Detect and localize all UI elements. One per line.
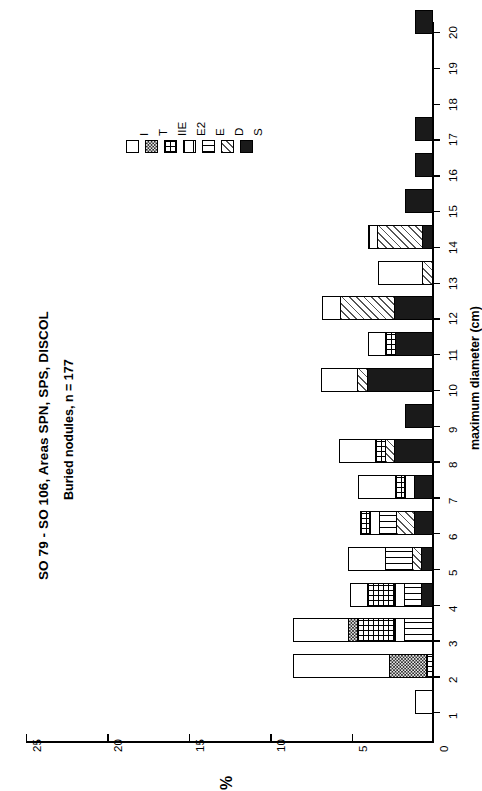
percent-tick-label: 10: [275, 739, 287, 752]
stacked-bar: [293, 618, 433, 642]
bar-segment-d: [413, 548, 423, 570]
diameter-tick: [433, 68, 440, 69]
bar-segment-iie: [368, 584, 395, 606]
bar-segment-s: [396, 333, 432, 355]
stacked-bar: [348, 547, 433, 571]
stacked-bar: [415, 153, 433, 177]
stacked-bar: [415, 10, 433, 34]
percent-tick-label: 20: [112, 739, 124, 752]
bar-segment-i: [349, 548, 386, 570]
percent-tick: [107, 734, 108, 741]
percent-tick: [189, 734, 190, 741]
diameter-tick: [433, 426, 440, 427]
diameter-tick: [433, 712, 440, 713]
bar-segment-s: [416, 11, 432, 33]
diameter-tick: [433, 283, 440, 284]
bar-segment-i: [322, 369, 359, 391]
legend-swatch-t: [145, 140, 158, 153]
bar-segment-i: [416, 691, 432, 713]
legend-label-e2: E2: [195, 122, 207, 136]
stacked-bar: [360, 511, 433, 535]
stacked-bar: [415, 117, 433, 141]
bar-segment-iie: [376, 440, 386, 462]
bar-segment-s: [415, 512, 432, 534]
diameter-tick-label: 6: [447, 534, 459, 540]
stacked-bar: [405, 404, 433, 428]
diameter-tick-label: 19: [447, 62, 459, 75]
legend-swatch-i: [126, 140, 139, 153]
bar-segment-i: [323, 297, 341, 319]
bar-segment-s: [368, 369, 432, 391]
bar-segment-iie: [358, 619, 395, 641]
stacked-bar: [339, 439, 433, 463]
legend-swatch-s: [240, 140, 253, 153]
diameter-tick-label: 10: [447, 384, 459, 397]
bar-segment-i: [294, 655, 390, 677]
legend-label-t: T: [157, 129, 169, 136]
percent-tick: [433, 734, 434, 741]
stacked-bar: [378, 261, 433, 285]
bar-segment-d: [423, 262, 432, 284]
diameter-tick-label: 5: [447, 569, 459, 575]
bar-segment-s: [415, 476, 432, 498]
diameter-tick-label: 11: [447, 349, 459, 361]
diameter-tick: [433, 104, 440, 105]
percent-tick: [352, 734, 353, 741]
bar-segment-iie: [396, 476, 406, 498]
legend-label-i: I: [138, 133, 150, 136]
bar-segment-e2: [395, 619, 405, 641]
diameter-tick: [433, 676, 440, 677]
diameter-tick-label: 18: [447, 98, 459, 111]
diameter-tick: [433, 390, 440, 391]
bar-segment-i: [294, 619, 349, 641]
diameter-tick-label: 8: [447, 462, 459, 468]
bar-segment-t: [349, 619, 359, 641]
stacked-bar: [415, 690, 433, 714]
percent-axis-label: %: [218, 776, 236, 790]
bar-segment-s: [406, 190, 432, 212]
diameter-tick: [433, 533, 440, 534]
bar-segment-iie: [427, 655, 432, 677]
percent-tick: [26, 734, 27, 741]
bar-segment-e2: [395, 584, 405, 606]
bar-segment-e: [380, 512, 397, 534]
bar-segment-s: [395, 297, 432, 319]
diameter-tick: [433, 640, 440, 641]
diameter-tick-label: 4: [447, 605, 459, 611]
diameter-tick: [433, 497, 440, 498]
bar-segment-iie: [386, 333, 395, 355]
percent-tick-label: 15: [194, 739, 206, 752]
diameter-tick-label: 17: [447, 134, 459, 147]
bar-segment-s: [416, 154, 432, 176]
stacked-bar: [293, 654, 433, 678]
diameter-tick: [433, 32, 440, 33]
percent-tick: [270, 734, 271, 741]
diameter-tick: [433, 139, 440, 140]
diameter-tick: [433, 175, 440, 176]
bar-segment-s: [406, 405, 432, 427]
bar-segment-e2: [369, 226, 378, 248]
bar-segment-i: [340, 440, 377, 462]
bar-segment-i: [359, 476, 395, 498]
bar-segment-s: [395, 440, 432, 462]
stacked-bar: [405, 189, 433, 213]
diameter-tick-label: 3: [447, 641, 459, 647]
legend-label-e: E: [214, 128, 226, 136]
legend-label-d: D: [233, 128, 245, 136]
bar-segment-s: [423, 226, 432, 248]
legend-swatch-e2: [183, 140, 196, 153]
stacked-bar: [368, 332, 433, 356]
percent-tick-label: 0: [438, 746, 450, 752]
bar-segment-s: [422, 584, 432, 606]
diameter-tick-label: 16: [447, 169, 459, 182]
stacked-bar: [322, 296, 433, 320]
diameter-tick-label: 15: [447, 205, 459, 218]
diameter-tick-label: 12: [447, 313, 459, 326]
legend-swatch-iie: [164, 140, 177, 153]
diameter-tick-label: 1: [447, 713, 459, 719]
bar-segment-t: [390, 655, 427, 677]
diameter-tick: [433, 211, 440, 212]
diameter-tick-label: 14: [447, 241, 459, 254]
diameter-tick: [433, 605, 440, 606]
